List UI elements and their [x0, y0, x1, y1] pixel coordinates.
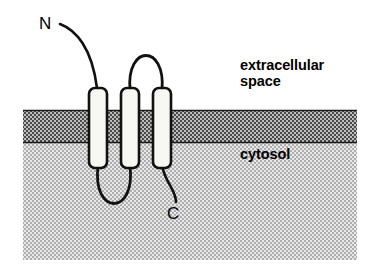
n-terminus-label: N	[39, 14, 51, 33]
extracellular-space-label-line1: extracellular	[240, 57, 324, 73]
extracellular-space-region	[0, 0, 374, 110]
extracellular-space-label: extracellularspace	[240, 57, 324, 89]
transmembrane-helix-1	[89, 88, 107, 168]
cytosol-region	[23, 143, 357, 260]
transmembrane-helix-2	[121, 88, 139, 168]
extracellular-space-label-line2: space	[240, 73, 281, 89]
transmembrane-helix-3	[153, 88, 171, 168]
diagram-canvas	[0, 0, 374, 267]
cytosol-label: cytosol	[240, 146, 290, 162]
c-terminus-label: C	[167, 204, 179, 223]
membrane-region	[23, 110, 357, 143]
transmembrane-protein-diagram: extracellularspace cytosol N C	[0, 0, 374, 267]
